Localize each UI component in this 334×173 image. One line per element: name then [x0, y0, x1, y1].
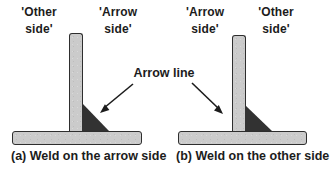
label-other-side-a-line1: 'Other: [13, 4, 65, 21]
vertical-plate-a: [69, 33, 83, 132]
arrow-line-label: Arrow line: [131, 66, 197, 80]
horizontal-plate-b: [178, 131, 307, 145]
label-arrow-side-a-line1: 'Arrow: [92, 4, 144, 21]
arrow-to-weld-a-icon: [100, 84, 133, 113]
label-other-side-a-line2: side': [13, 21, 65, 38]
label-other-side-b: 'Other side': [250, 4, 302, 38]
label-arrow-side-b-line1: 'Arrow: [179, 4, 231, 21]
caption-a: (a) Weld on the arrow side: [11, 149, 161, 163]
weld-triangle-a: [82, 103, 109, 131]
label-other-side-b-line2: side': [250, 21, 302, 38]
arrow-to-plate-b-icon: [192, 83, 223, 114]
horizontal-plate-a: [12, 131, 142, 145]
label-arrow-side-b-line2: side': [179, 21, 231, 38]
label-other-side-a: 'Other side': [13, 4, 65, 38]
weld-side-diagram: 'Other side' 'Arrow side' (a) Weld on th…: [0, 0, 334, 173]
label-arrow-side-b: 'Arrow side': [179, 4, 231, 38]
label-arrow-side-a-line2: side': [92, 21, 144, 38]
vertical-plate-b: [232, 35, 246, 132]
weld-triangle-b: [245, 105, 272, 131]
label-arrow-side-a: 'Arrow side': [92, 4, 144, 38]
caption-b: (b) Weld on the other side: [176, 149, 326, 163]
label-other-side-b-line1: 'Other: [250, 4, 302, 21]
